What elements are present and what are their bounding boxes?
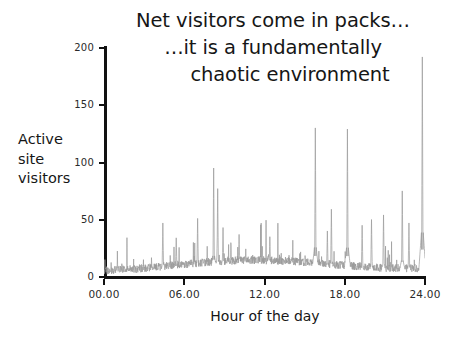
data-series-line [104,48,425,277]
plot-area [104,48,425,277]
y-axis-title-line-1: Active [18,130,96,150]
x-tick-00.00 [103,279,105,285]
x-tick-label-06.00: 06.00 [156,288,212,300]
y-tick-label-100: 100 [54,157,94,168]
x-tick-24.00 [424,279,426,285]
x-tick-18.00 [344,279,346,285]
y-tick-label-200: 200 [54,42,94,53]
x-tick-06.00 [183,279,185,285]
x-tick-label-24.00: 24.00 [397,288,453,300]
x-tick-label-18.00: 18.00 [317,288,373,300]
slide-canvas: Net visitors come in packs… …it is a fun… [0,0,458,344]
y-tick-label-50: 50 [54,214,94,225]
y-tick-label-0: 0 [54,271,94,282]
x-axis-title: Hour of the day [145,308,385,324]
title-line-1: Net visitors come in packs… [108,7,438,34]
y-tick-label-150: 150 [54,99,94,110]
x-tick-label-12.00: 12.00 [237,288,293,300]
x-tick-label-00.00: 00.00 [76,288,132,300]
x-tick-12.00 [264,279,266,285]
y-axis-title-line-3: visitors [18,169,96,189]
